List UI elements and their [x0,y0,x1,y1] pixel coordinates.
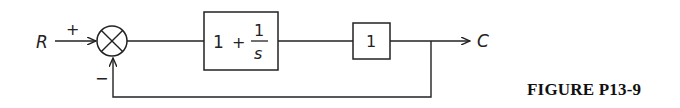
output-label: C [477,31,489,51]
minus-sign: − [95,69,108,88]
plant-label: 1 [366,32,376,51]
controller-plus: + [232,33,245,52]
controller-numerator: 1 [254,21,264,40]
figure-caption: FIGURE P13-9 [527,80,641,100]
controller-denominator: s [254,44,262,63]
input-label: R [36,32,48,52]
controller-block: 1 + 1 s [204,12,278,70]
summing-junction [97,26,127,56]
controller-integer: 1 [213,32,224,52]
plus-sign: + [66,20,79,39]
plant-block: 1 [353,23,390,59]
